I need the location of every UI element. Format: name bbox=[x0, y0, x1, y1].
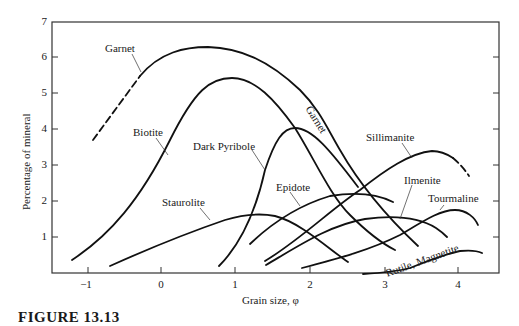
y-ticks-left bbox=[52, 57, 58, 237]
curve-biotite bbox=[72, 78, 395, 260]
curve-sillimanite bbox=[265, 151, 453, 261]
label-sillimanite: Sillimanite bbox=[366, 132, 414, 143]
label-epidote: Epidote bbox=[276, 182, 310, 193]
y-tick-6: 6 bbox=[33, 51, 47, 62]
y-tick-3: 3 bbox=[33, 159, 47, 170]
x-tick-4: 4 bbox=[455, 279, 461, 290]
y-tick-7: 7 bbox=[33, 16, 47, 27]
x-tick-3: 3 bbox=[382, 279, 388, 290]
x-tick-2: 2 bbox=[307, 279, 313, 290]
x-tick-neg1: −1 bbox=[80, 279, 92, 290]
label-biotite: Biotite bbox=[133, 127, 163, 138]
y-tick-5: 5 bbox=[33, 87, 47, 98]
y-tick-1: 1 bbox=[33, 231, 47, 242]
plot-frame bbox=[52, 22, 499, 273]
y-axis-label: Percentage of mineral bbox=[20, 113, 32, 210]
curve-staurolite bbox=[110, 214, 348, 266]
label-garnet: Garnet bbox=[105, 43, 135, 54]
x-tick-1: 1 bbox=[232, 279, 238, 290]
curve-sillimanite-dashed bbox=[453, 158, 469, 176]
label-dark-pyribole: Dark Pyribole bbox=[193, 141, 255, 152]
label-staurolite: Staurolite bbox=[162, 197, 205, 208]
curve-garnet bbox=[140, 47, 418, 246]
y-ticks-right bbox=[493, 57, 499, 237]
y-tick-4: 4 bbox=[33, 123, 47, 134]
label-tourmaline: Tourmaline bbox=[428, 193, 479, 204]
x-tick-0: 0 bbox=[158, 279, 164, 290]
label-ilmenite: Ilmenite bbox=[404, 175, 441, 186]
y-tick-2: 2 bbox=[33, 195, 47, 206]
figure-caption: FIGURE 13.13 bbox=[18, 309, 120, 326]
x-axis-label: Grain size, φ bbox=[242, 294, 299, 306]
